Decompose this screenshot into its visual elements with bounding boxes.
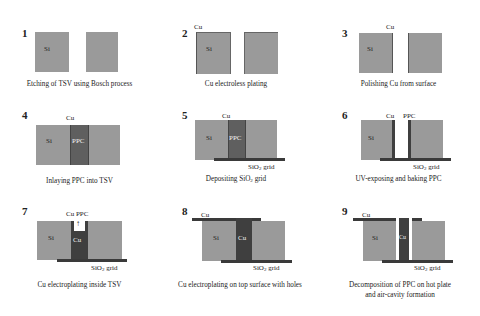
caption-line-2: and air-cavity formation xyxy=(320,291,480,301)
step-caption: Etching of TSV using Bosch process xyxy=(17,80,142,90)
silicon-block-left xyxy=(363,221,396,261)
step-caption: Polishing Cu from surface xyxy=(336,80,461,90)
step-number: 8 xyxy=(182,205,188,217)
step-number: 1 xyxy=(22,27,28,39)
si-label: Si xyxy=(48,234,54,242)
silicon-block-right xyxy=(408,33,442,73)
sio2-grid-label: SiO2 grid xyxy=(414,264,440,272)
sio2-grid-label: SiO2 grid xyxy=(413,163,439,171)
ppc-label: PPC xyxy=(229,134,241,142)
cu-label: Cu xyxy=(66,114,74,122)
step-number: 4 xyxy=(22,109,28,121)
step-number: 6 xyxy=(342,109,348,121)
step-number: 5 xyxy=(182,109,188,121)
ppc-fill xyxy=(70,125,89,165)
ppc-label: PPC xyxy=(403,112,415,120)
step-number: 2 xyxy=(182,27,188,39)
silicon-block-right xyxy=(410,120,443,160)
ppc-label: PPC xyxy=(72,137,84,145)
silicon-block-right xyxy=(244,32,278,74)
silicon-block-left xyxy=(361,120,394,160)
sio2-grid xyxy=(214,158,285,161)
cu-label: Cu xyxy=(73,236,81,244)
si-label: Si xyxy=(368,134,374,142)
step-caption: Cu electroless plating xyxy=(176,80,296,90)
cu-liner-right xyxy=(408,120,411,160)
si-label: Si xyxy=(206,134,212,142)
si-label: Si xyxy=(206,45,212,53)
step-number: 7 xyxy=(22,205,28,217)
step-number: 9 xyxy=(342,205,348,217)
si-label: Si xyxy=(367,45,373,53)
cu-label: Cu xyxy=(386,23,394,31)
sio2-grid-label: SiO2 grid xyxy=(91,264,117,272)
silicon-block-left xyxy=(359,33,393,73)
silicon-block-right xyxy=(86,32,118,72)
step-caption: Cu electroplating on top surface with ho… xyxy=(160,281,320,291)
cu-fill-label: Cu xyxy=(238,234,246,242)
cu-label: Cu xyxy=(222,112,230,120)
sio2-grid-label: SiO2 grid xyxy=(248,163,274,171)
silicon-block-left xyxy=(35,32,69,72)
cu-liner-left xyxy=(392,120,395,160)
silicon-block-left xyxy=(196,32,231,74)
silicon-block-right xyxy=(412,221,445,261)
arrow-up-icon: ↑ xyxy=(76,219,80,228)
sio2-grid xyxy=(382,260,453,263)
step-number: 3 xyxy=(342,27,348,39)
step-caption: Inlaying PPC into TSV xyxy=(17,177,142,187)
step-caption: Cu electroplating inside TSV xyxy=(17,281,142,291)
caption-line-1: Decomposition of PPC on hot plate xyxy=(320,281,480,291)
si-label: Si xyxy=(372,234,378,242)
sio2-grid xyxy=(221,260,292,263)
si-label: Si xyxy=(46,137,52,145)
cu-pillar-label: Cu xyxy=(399,234,406,240)
cu-label: Cu xyxy=(194,23,202,31)
sio2-grid xyxy=(380,158,451,161)
step-caption: Decomposition of PPC on hot plate and ai… xyxy=(320,281,480,300)
si-label: Si xyxy=(44,45,50,53)
sio2-grid-label: SiO2 grid xyxy=(253,264,279,272)
step-caption: UV-exposing and baking PPC xyxy=(336,175,461,185)
cu-ppc-label: Cu PPC xyxy=(66,210,88,218)
cu-label: Cu xyxy=(386,112,394,120)
si-label: Si xyxy=(213,234,219,242)
step-caption: Depositing SiO2 grid xyxy=(176,175,296,186)
sio2-grid xyxy=(57,259,127,262)
